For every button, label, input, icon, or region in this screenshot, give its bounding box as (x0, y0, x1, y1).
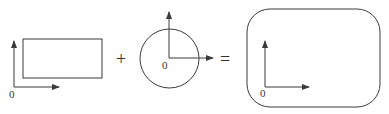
origin-label: 0 (162, 59, 168, 71)
panel-rounded-rectangle: 0 (247, 9, 380, 107)
plus-operator: + (116, 49, 126, 69)
panel-rectangle: 0 (9, 39, 102, 100)
origin-label: 0 (260, 87, 266, 99)
rounded-rectangle-shape (247, 9, 380, 107)
minkowski-sum-diagram: 0 + 0 = 0 (0, 0, 389, 114)
origin-label: 0 (9, 88, 15, 100)
equals-operator: = (220, 49, 230, 69)
rectangle-shape (23, 39, 102, 78)
panel-circle: 0 (140, 12, 213, 88)
